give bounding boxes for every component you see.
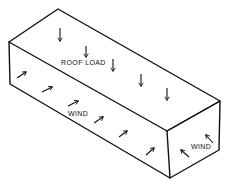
wind-arrow-icon	[68, 101, 78, 106]
box-outline	[9, 9, 220, 178]
wind-side-label: WIND	[68, 110, 88, 117]
wind-end-label: WIND	[191, 143, 211, 150]
wind-arrow-icon	[181, 150, 189, 157]
wind-arrow-icon	[119, 131, 127, 137]
end-face	[167, 101, 220, 178]
wind-arrow-icon	[206, 135, 213, 143]
wind-arrow-icon	[42, 87, 52, 92]
roof-face	[9, 9, 220, 131]
roof-load-label: ROOF LOAD	[61, 59, 106, 66]
wind-arrow-icon	[94, 117, 103, 123]
building-block-diagram	[0, 0, 230, 189]
wind-arrow-icon	[146, 148, 154, 155]
wind-arrow-icon	[17, 72, 26, 78]
